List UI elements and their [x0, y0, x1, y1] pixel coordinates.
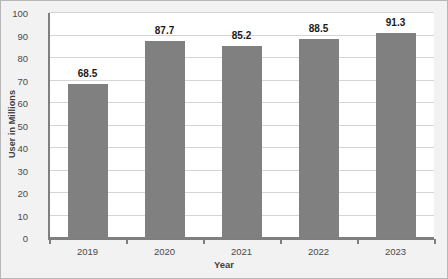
bar[interactable] [376, 33, 416, 238]
bar-slot: 68.5 [49, 13, 126, 238]
y-tick-label: 0 [2, 233, 28, 244]
y-tick-label: 10 [2, 210, 28, 221]
y-tick-label: 80 [2, 53, 28, 64]
bar-slot: 85.2 [203, 13, 280, 238]
y-tick-label: 90 [2, 30, 28, 41]
y-tick-label: 20 [2, 188, 28, 199]
y-tick-label: 50 [2, 120, 28, 131]
x-tick-label: 2019 [49, 246, 126, 257]
bar-chart-figure: User in Millions 68.587.785.288.591.3 Ye… [0, 0, 448, 279]
bar-slot: 91.3 [357, 13, 434, 238]
x-axis-line [48, 238, 434, 240]
bar[interactable] [222, 46, 262, 238]
y-tick-label: 60 [2, 98, 28, 109]
x-axis-title: Year [1, 259, 447, 270]
bar-value-label: 68.5 [49, 68, 126, 79]
x-tick-label: 2023 [357, 246, 434, 257]
bar[interactable] [68, 84, 108, 238]
bar-value-label: 85.2 [203, 30, 280, 41]
x-tick-label: 2021 [203, 246, 280, 257]
bar-value-label: 91.3 [357, 17, 434, 28]
y-axis-line [48, 13, 50, 239]
bar-value-label: 88.5 [280, 23, 357, 34]
x-axis-tick [203, 239, 205, 244]
x-axis-tick [49, 239, 51, 244]
y-tick-label: 70 [2, 75, 28, 86]
y-tick-label: 30 [2, 165, 28, 176]
bar-slot: 87.7 [126, 13, 203, 238]
plot-area: 68.587.785.288.591.3 [49, 13, 434, 238]
x-axis-tick [434, 239, 436, 244]
x-axis-tick [280, 239, 282, 244]
bar-slot: 88.5 [280, 13, 357, 238]
x-axis-tick [126, 239, 128, 244]
bar[interactable] [145, 41, 185, 238]
x-tick-label: 2022 [280, 246, 357, 257]
x-axis-tick [357, 239, 359, 244]
y-tick-label: 40 [2, 143, 28, 154]
x-tick-label: 2020 [126, 246, 203, 257]
bar-value-label: 87.7 [126, 25, 203, 36]
y-tick-label: 100 [2, 8, 28, 19]
bar[interactable] [299, 39, 339, 238]
